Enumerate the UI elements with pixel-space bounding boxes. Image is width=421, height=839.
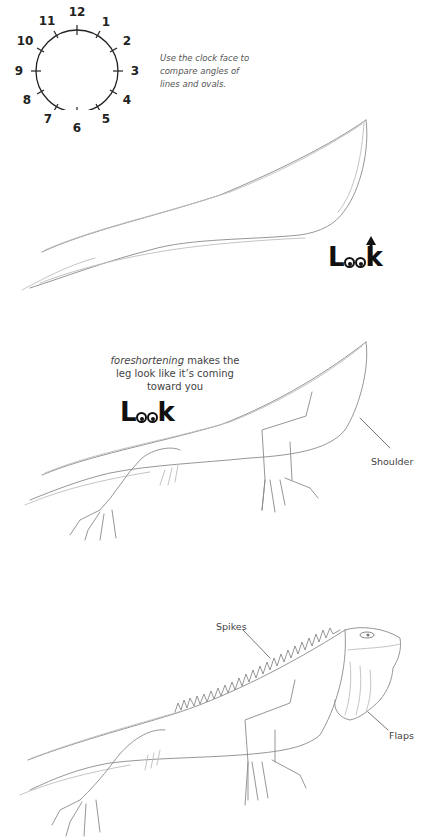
clock-caption: Use the clock face to compare angles of …: [160, 52, 255, 91]
clock-number-4: 4: [123, 94, 131, 106]
clock-number-12: 12: [69, 6, 86, 18]
clock-number-10: 10: [17, 35, 34, 47]
clock-number-3: 3: [131, 65, 139, 77]
clock-number-9: 9: [15, 65, 23, 77]
clock-number-8: 8: [23, 94, 31, 106]
step2-body-legs-sketch: [0, 330, 421, 570]
look-letter-l: L: [328, 244, 344, 270]
step3-iguana-sketch: [0, 600, 421, 839]
look-eye-icon: [355, 257, 366, 268]
look-eye-icon: [344, 257, 355, 268]
clock-face: 12 1 2 3 4 5 6 7 8 9 10 11: [0, 0, 150, 110]
clock-number-11: 11: [39, 15, 56, 27]
step1-body-outline-sketch: [0, 110, 421, 310]
clock-number-1: 1: [102, 16, 110, 28]
look-badge-step1: L k: [328, 244, 382, 270]
label-spikes: Spikes: [216, 621, 247, 632]
label-flaps: Flaps: [389, 730, 414, 741]
clock-number-2: 2: [123, 35, 131, 47]
up-arrow-icon: [366, 236, 376, 266]
label-shoulder: Shoulder: [371, 456, 413, 467]
